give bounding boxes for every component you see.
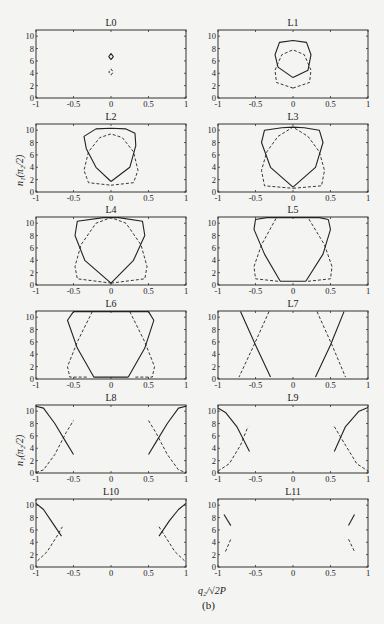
svg-text:0: 0 bbox=[291, 568, 295, 578]
svg-text:8: 8 bbox=[212, 513, 216, 523]
svg-text:2: 2 bbox=[212, 550, 216, 560]
svg-text:0.5: 0.5 bbox=[325, 568, 336, 578]
svg-text:6: 6 bbox=[212, 525, 216, 535]
svg-text:10: 10 bbox=[208, 500, 217, 510]
x-axis-label: q₂/√2P bbox=[198, 585, 226, 596]
svg-text:-0.5: -0.5 bbox=[249, 568, 262, 578]
svg-text:4: 4 bbox=[212, 537, 217, 547]
figure-caption: (b) bbox=[202, 599, 215, 611]
subplot-L11: -1-0.500.510246810 bbox=[0, 0, 384, 624]
svg-text:0: 0 bbox=[212, 562, 216, 572]
y-axis-label-row2: n₁(π₂/2) bbox=[14, 155, 25, 186]
svg-text:1: 1 bbox=[366, 568, 370, 578]
y-axis-label-row5: n₁(π₂/2) bbox=[14, 435, 25, 466]
